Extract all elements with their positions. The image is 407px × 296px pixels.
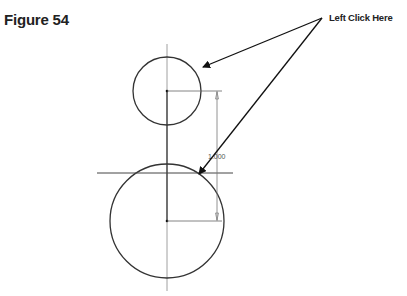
callout-arrow-to-intersection <box>199 18 322 174</box>
sketch-drawing: 1.000 <box>0 0 407 296</box>
callout-arrow-to-small-circle <box>203 18 322 67</box>
